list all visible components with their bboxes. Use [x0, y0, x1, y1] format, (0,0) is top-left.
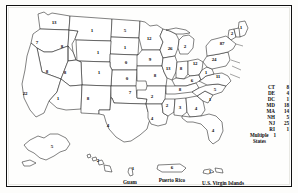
territory-count-guam: 1 — [132, 166, 134, 171]
state-count-wy: 1 — [97, 50, 99, 55]
state-count-pa: 24 — [212, 57, 217, 62]
state-count-ok: 7 — [129, 90, 131, 95]
state-count-id: 8 — [61, 44, 63, 49]
state-count-wi: 26 — [168, 46, 173, 51]
state-count-nm: 8 — [87, 96, 89, 101]
state-count-hi: 2 — [97, 158, 99, 163]
state-count-me: 1 — [240, 25, 242, 30]
state-count-wa: 13 — [52, 20, 57, 25]
state-count-vt: 2 — [231, 31, 233, 36]
small-state-legend: CT8DE4DC1MD18MA14NH5NJ25RI1Multiple1Stat… — [239, 84, 289, 144]
state-count-co: 1 — [98, 70, 100, 75]
territory-label-puerto-rico: Puerto Rico — [159, 178, 185, 183]
state-count-mn: 12 — [147, 36, 152, 41]
state-count-va: 11 — [216, 74, 220, 79]
state-count-ky: 6 — [191, 78, 193, 83]
state-count-sd: 1 — [124, 45, 126, 50]
state-count-al: 3 — [179, 105, 181, 110]
state-count-la: 4 — [151, 116, 153, 121]
us-map-figure: 1378151182281001874129824261322883126442… — [0, 0, 298, 193]
state-count-ga: 4 — [195, 106, 197, 111]
legend-count-ri: 1 — [280, 126, 289, 132]
state-count-ne: 0 — [125, 60, 127, 65]
state-count-wv: 1 — [205, 70, 207, 75]
state-count-ut: 8 — [64, 70, 66, 75]
territory-label-u-s-virgin-islands: U.S. Virgin Islands — [202, 181, 244, 186]
territory-label-guam: Guam — [123, 180, 137, 185]
state-count-ms: 2 — [166, 103, 168, 108]
state-count-fl: 4 — [212, 128, 214, 133]
state-count-az: 1 — [57, 96, 59, 101]
state-count-mi: 2 — [184, 44, 186, 49]
legend-abbr-multiple-states-line2: States — [239, 138, 287, 144]
territory-count-puerto-rico: 6 — [171, 165, 173, 170]
state-count-oh: 12 — [193, 61, 198, 66]
state-count-nv: 8 — [46, 69, 48, 74]
legend-row-multiple-states: Multiple1States — [239, 132, 289, 144]
state-count-mt: 1 — [91, 28, 93, 33]
state-count-ks: 0 — [126, 76, 128, 81]
territory-count-u-s-virgin-islands: 1 — [209, 169, 211, 174]
state-count-ak: 5 — [51, 144, 53, 149]
state-outlines — [22, 12, 248, 176]
state-count-nc: 5 — [214, 87, 216, 92]
state-count-tn: 8 — [179, 87, 181, 92]
state-count-or: 7 — [36, 40, 38, 45]
state-count-il: 13 — [166, 66, 171, 71]
state-count-mo: 8 — [154, 73, 156, 78]
state-count-ia: 9 — [149, 57, 151, 62]
state-count-ar: 2 — [151, 94, 153, 99]
legend-count-multiple-states: 1 — [269, 132, 277, 138]
state-count-ny: 87 — [220, 41, 225, 46]
state-count-nd: 5 — [124, 28, 126, 33]
state-count-sc: 1 — [209, 97, 211, 102]
state-count-tx: 4 — [107, 123, 109, 128]
state-count-ca: 22 — [23, 91, 28, 96]
state-count-in: 8 — [180, 66, 182, 71]
